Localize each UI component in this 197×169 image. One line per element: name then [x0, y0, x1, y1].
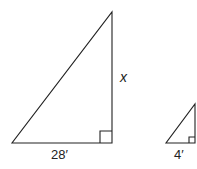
small-base-label: 4′ — [174, 148, 184, 161]
small-right-angle-marker — [189, 137, 195, 143]
diagram-canvas — [0, 0, 197, 169]
small-triangle — [166, 104, 195, 143]
large-base-label: 28′ — [51, 148, 68, 161]
large-triangle — [12, 12, 112, 143]
large-height-label: x — [120, 70, 127, 84]
large-right-angle-marker — [100, 131, 112, 143]
